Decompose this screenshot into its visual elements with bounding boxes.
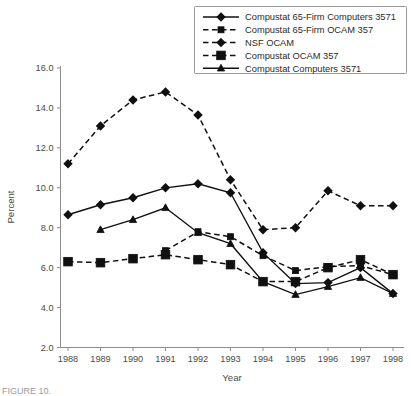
data-point-diamond <box>129 194 136 201</box>
x-tick-label: 1994 <box>253 354 273 364</box>
y-axis-ticks: 2.04.06.08.010.012.014.016.0 <box>36 63 61 353</box>
legend-label: Compustat OCAM 357 <box>245 51 339 61</box>
data-point-triangle <box>162 204 169 211</box>
x-tick-label: 1998 <box>383 354 403 364</box>
series-group <box>64 250 398 286</box>
data-point-square-large <box>64 257 73 266</box>
data-point-diamond <box>227 189 234 196</box>
x-tick-label: 1991 <box>155 354 175 364</box>
x-tick-label: 1989 <box>90 354 110 364</box>
figure-container: 2.04.06.08.010.012.014.016.0 19881989199… <box>0 0 411 396</box>
data-point-square <box>260 253 266 259</box>
data-point-square-large <box>194 255 203 264</box>
data-point-square-large <box>389 270 398 279</box>
data-series-layer <box>64 88 398 297</box>
data-point-diamond <box>97 201 104 208</box>
legend-item[interactable]: Compustat OCAM 357 <box>203 51 339 61</box>
y-tick-label: 4.0 <box>41 303 54 313</box>
series-group <box>97 204 397 298</box>
legend-label: Compustat 65-Firm OCAM 357 <box>245 25 373 35</box>
data-point-diamond <box>324 187 331 194</box>
y-tick-label: 6.0 <box>41 263 54 273</box>
x-tick-label: 1988 <box>58 354 78 364</box>
data-point-diamond <box>64 211 71 218</box>
data-point-diamond <box>162 184 169 191</box>
x-tick-label: 1992 <box>188 354 208 364</box>
data-point-square <box>293 268 299 274</box>
data-point-square-large <box>96 258 105 267</box>
series-group <box>64 88 396 233</box>
y-tick-label: 2.0 <box>41 343 54 353</box>
x-tick-label: 1996 <box>318 354 338 364</box>
data-point-square-large <box>291 277 300 286</box>
x-tick-label: 1993 <box>220 354 240 364</box>
y-tick-label: 16.0 <box>36 63 54 73</box>
series-line <box>101 208 394 295</box>
x-tick-label: 1990 <box>123 354 143 364</box>
data-point-diamond <box>389 202 396 209</box>
data-point-diamond <box>357 202 364 209</box>
data-point-square-large <box>324 263 333 272</box>
legend-label: Compustat 65-Firm Computers 3571 <box>245 12 396 22</box>
y-tick-label: 10.0 <box>36 183 54 193</box>
data-point-square <box>218 27 224 33</box>
x-axis-title: Year <box>222 372 242 383</box>
x-tick-label: 1995 <box>285 354 305 364</box>
data-point-diamond <box>129 96 136 103</box>
data-point-triangle <box>357 274 364 281</box>
data-point-square-large <box>217 51 226 60</box>
y-tick-label: 8.0 <box>41 223 54 233</box>
line-chart: 2.04.06.08.010.012.014.016.0 19881989199… <box>0 0 411 396</box>
series-line <box>68 92 393 230</box>
legend-label: NSF OCAM <box>245 38 294 48</box>
y-tick-label: 12.0 <box>36 143 54 153</box>
data-point-square-large <box>129 254 138 263</box>
legend-label: Compustat Computers 3571 <box>245 64 361 74</box>
data-point-square-large <box>356 255 365 264</box>
y-tick-label: 14.0 <box>36 103 54 113</box>
data-point-square-large <box>226 260 235 269</box>
data-point-square-large <box>161 250 170 259</box>
data-point-diamond <box>194 111 201 118</box>
figure-caption: FIGURE 10. <box>2 386 51 396</box>
data-point-square <box>228 234 234 240</box>
x-axis-ticks: 1988198919901991199219931994199519961997… <box>58 348 403 364</box>
data-point-diamond <box>227 176 234 183</box>
x-tick-label: 1997 <box>350 354 370 364</box>
y-axis-title: Percent <box>5 190 16 223</box>
data-point-diamond <box>194 180 201 187</box>
